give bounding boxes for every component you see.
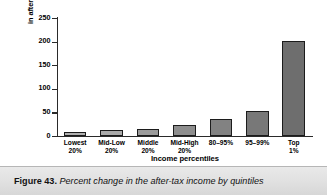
- y-axis-line: [57, 17, 58, 136]
- y-axis-tick-label: 100: [39, 83, 51, 93]
- y-axis-tick: 0: [52, 136, 57, 137]
- y-axis-title-line-2: in after-tax income, 1979–2000: [26, 0, 35, 24]
- x-axis-category-label-line: Top: [272, 139, 316, 147]
- bar: [137, 129, 160, 136]
- y-axis-tick-label: 250: [39, 13, 51, 23]
- figure-caption: Figure 43. Percent change in the after-t…: [0, 176, 264, 186]
- bar: [173, 125, 196, 136]
- y-axis-tick-label: 150: [39, 60, 51, 70]
- figure-caption-band: Figure 43. Percent change in the after-t…: [0, 166, 327, 195]
- figure-container: Percent change in after-tax income, 1979…: [0, 0, 327, 195]
- bar: [282, 41, 305, 136]
- y-axis-tick-label: 0: [47, 131, 51, 141]
- y-axis-tick: 100: [52, 89, 57, 90]
- y-axis-tick: 150: [52, 65, 57, 66]
- figure-caption-body: Percent change in the after-tax income b…: [60, 176, 264, 186]
- bar: [100, 130, 123, 136]
- y-axis-tick: 200: [52, 42, 57, 43]
- y-axis-tick: 50: [52, 112, 57, 113]
- y-axis-tick-label: 200: [39, 36, 51, 46]
- bar: [210, 119, 233, 136]
- chart-plot-area: Percent change in after-tax income, 1979…: [0, 0, 327, 166]
- y-axis-tick: 250: [52, 18, 57, 19]
- y-axis-tick-label: 50: [43, 107, 51, 117]
- x-axis-category-label: Top1%: [272, 139, 316, 154]
- figure-caption-label: Figure 43.: [14, 176, 57, 186]
- bar: [64, 132, 87, 136]
- bar: [246, 111, 269, 136]
- x-axis-title: Income percentiles: [57, 154, 313, 163]
